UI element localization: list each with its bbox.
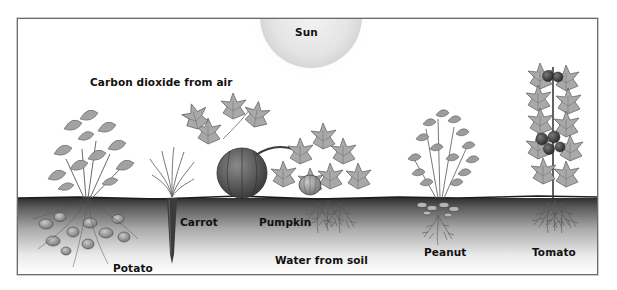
diagram-frame: Sun Carbon dioxide from air Potato Carro… <box>17 18 598 275</box>
water-from-soil-label: Water from soil <box>275 254 368 266</box>
sun-label: Sun <box>295 26 318 38</box>
carbon-dioxide-label: Carbon dioxide from air <box>90 76 233 88</box>
potato-label: Potato <box>113 262 153 274</box>
pumpkin-label: Pumpkin <box>259 216 311 228</box>
tomato-label: Tomato <box>532 246 576 258</box>
plants-illustration <box>18 19 597 274</box>
peanut-label: Peanut <box>424 246 466 258</box>
carrot-label: Carrot <box>180 216 218 228</box>
